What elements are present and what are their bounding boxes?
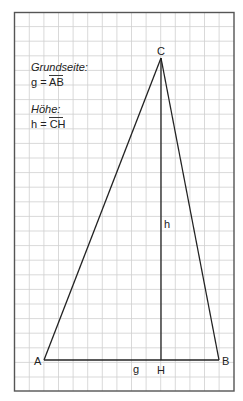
- segment-ch: CH: [50, 118, 66, 130]
- vertex-c-label: C: [157, 45, 165, 57]
- vertex-a-label: A: [34, 355, 42, 367]
- vertex-b-label: B: [222, 355, 229, 367]
- base-title: Grundseite:: [31, 61, 88, 73]
- height-h-label: h: [164, 218, 170, 230]
- height-title: Höhe:: [31, 103, 60, 115]
- base-g-label: g: [133, 363, 139, 375]
- triangle-diagram: C A B H g h Grundseite: g = AB Höhe: h =…: [0, 0, 243, 401]
- foot-h-label: H: [157, 364, 165, 376]
- base-formula: g = AB: [31, 76, 64, 88]
- segment-ab: AB: [49, 76, 64, 88]
- height-formula: h = CH: [31, 118, 66, 130]
